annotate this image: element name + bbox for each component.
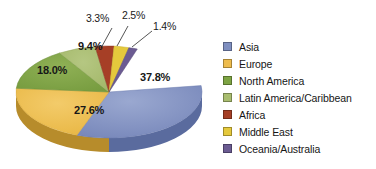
legend-swatch-icon-latin-america (223, 93, 232, 102)
pie-chart-plot: 3.3% 2.5% 1.4% 37.8% 27.6% 18.0% 9.4% (0, 0, 218, 169)
slice-label-latin-america: 9.4% (78, 40, 102, 52)
pie-slices (16, 46, 202, 138)
slice-label-asia: 37.8% (140, 71, 170, 83)
legend-item-africa[interactable]: Africa (223, 106, 375, 123)
slice-label-north-america: 18.0% (37, 64, 67, 76)
legend-item-latin-america[interactable]: Latin America/Caribbean (223, 89, 375, 106)
legend-label-europe: Europe (239, 58, 272, 70)
legend-swatch-icon-africa (223, 110, 232, 119)
legend-swatch-icon-middle-east (223, 127, 232, 136)
leader-line-oceania (132, 31, 152, 47)
legend-item-europe[interactable]: Europe (223, 55, 375, 72)
legend-item-north-america[interactable]: North America (223, 72, 375, 89)
legend-label-latin-america: Latin America/Caribbean (239, 92, 352, 104)
pie-chart-svg (0, 0, 218, 169)
legend-label-africa: Africa (239, 109, 265, 121)
legend-swatch-icon-europe (223, 59, 232, 68)
legend-swatch-icon-asia (223, 42, 232, 51)
legend-label-asia: Asia (239, 41, 259, 53)
callout-label-middle-east: 2.5% (122, 9, 145, 21)
legend-item-asia[interactable]: Asia (223, 38, 375, 55)
legend-swatch-icon-north-america (223, 76, 232, 85)
callout-label-africa: 3.3% (86, 12, 109, 24)
legend-label-north-america: North America (239, 75, 304, 87)
legend-swatch-icon-oceania (223, 144, 232, 153)
legend-item-oceania[interactable]: Oceania/Australia (223, 140, 375, 157)
leader-line-middle-east (117, 26, 128, 46)
leader-line-africa (101, 28, 112, 48)
legend-label-middle-east: Middle East (239, 126, 293, 138)
legend-item-middle-east[interactable]: Middle East (223, 123, 375, 140)
pie-callout-leader-lines (101, 26, 152, 48)
legend-label-oceania: Oceania/Australia (239, 143, 320, 155)
callout-label-oceania: 1.4% (153, 20, 176, 32)
slice-label-europe: 27.6% (74, 104, 104, 116)
chart-legend: Asia Europe North America Latin America/… (223, 38, 375, 157)
pie-chart-figure: 3.3% 2.5% 1.4% 37.8% 27.6% 18.0% 9.4% As… (0, 0, 376, 169)
